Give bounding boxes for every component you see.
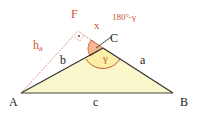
label-exterior-angle: 180°-γ xyxy=(112,12,136,22)
triangle-diagram: F x 180°-γ C γ ha b a c A B xyxy=(0,0,197,117)
label-gamma: γ xyxy=(102,52,108,64)
label-x: x xyxy=(94,19,100,31)
label-B: B xyxy=(180,95,188,109)
label-A: A xyxy=(9,95,18,109)
right-angle-dot xyxy=(78,35,80,37)
exterior-angle-pointer xyxy=(96,37,111,48)
label-c: c xyxy=(93,95,98,109)
label-C: C xyxy=(110,31,118,45)
label-ha: ha xyxy=(33,38,43,53)
label-a: a xyxy=(140,53,146,67)
diagram-canvas: F x 180°-γ C γ ha b a c A B xyxy=(0,0,197,117)
label-b: b xyxy=(60,53,66,67)
label-F: F xyxy=(71,7,78,21)
